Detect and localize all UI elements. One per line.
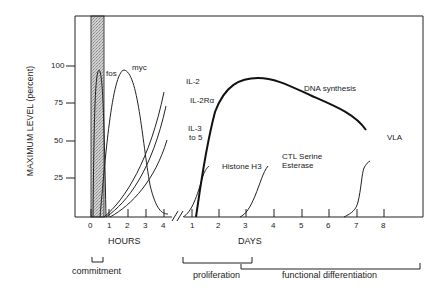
y-tick-75: 75 — [54, 99, 63, 107]
x-tick-day-3: 3 — [243, 222, 247, 230]
x-tick-hour-3: 3 — [143, 222, 147, 230]
label-il2: IL-2 — [186, 78, 200, 86]
x-tick-day-8: 8 — [381, 222, 385, 230]
series-ctl-serine-esterase — [240, 166, 268, 217]
series-dna-synthesis — [196, 78, 366, 217]
chart-canvas — [0, 0, 446, 295]
x-tick-day-1: 1 — [190, 222, 194, 230]
x-tick-hour-2: 2 — [125, 222, 129, 230]
label-fos: fos — [106, 70, 117, 78]
functional-differentiation-bracket — [241, 263, 420, 269]
label-il3: IL-3 — [188, 125, 202, 133]
label-il3-to5: to 5 — [189, 134, 202, 142]
x-tick-day-4: 4 — [271, 222, 275, 230]
phase-functional-differentiation: functional differentiation — [282, 271, 377, 280]
plot-frame — [75, 16, 423, 217]
y-tick-100: 100 — [51, 62, 64, 70]
x-tick-day-2: 2 — [216, 222, 220, 230]
series-myc — [100, 70, 168, 217]
phase-brackets — [92, 257, 420, 269]
phase-proliferation: proliferation — [193, 271, 240, 280]
x-tick-day-6: 6 — [326, 222, 330, 230]
label-ctl-serine: CTL Serine — [282, 153, 322, 161]
axis-break-icon — [172, 211, 184, 221]
x-tick-hour-0: 0 — [88, 222, 92, 230]
x-tick-hour-4: 4 — [161, 222, 165, 230]
label-histone-h3: Histone H3 — [222, 163, 262, 171]
x-axis-label-days: DAYS — [238, 237, 262, 246]
series-vla — [344, 161, 370, 217]
x-tick-hour-1: 1 — [107, 222, 111, 230]
x-axis-ticks — [91, 209, 384, 217]
x-axis-label-hours: HOURS — [108, 237, 141, 246]
label-esterase: Esterase — [282, 162, 314, 170]
y-tick-50: 50 — [54, 137, 63, 145]
label-myc: myc — [132, 64, 147, 72]
label-dna-synthesis: DNA synthesis — [304, 85, 356, 93]
y-tick-25: 25 — [54, 174, 63, 182]
proliferation-bracket — [183, 257, 252, 263]
x-tick-day-5: 5 — [299, 222, 303, 230]
series-il3 — [110, 140, 167, 217]
label-il2ra: IL-2Rα — [190, 97, 214, 105]
series-il2ra — [106, 106, 166, 217]
phase-commitment: commitment — [72, 267, 121, 276]
series-histone-h3 — [183, 166, 209, 217]
x-tick-day-7: 7 — [354, 222, 358, 230]
label-vla: VLA — [387, 134, 402, 142]
commitment-bracket — [92, 257, 103, 262]
y-axis-ticks — [66, 66, 75, 178]
y-axis-label: MAXIMUM LEVEL (percent) — [25, 63, 35, 179]
